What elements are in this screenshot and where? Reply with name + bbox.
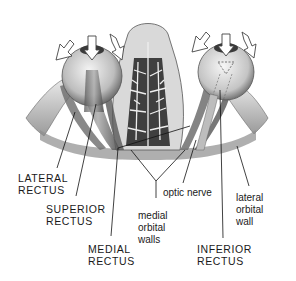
leader-medial-rectus (111, 148, 118, 236)
label-line: INFERIOR (197, 243, 252, 255)
label-line: medial (138, 210, 167, 222)
label-line: wall (236, 216, 263, 228)
label-line: orbital (138, 222, 167, 234)
arrow-right-in-icon (192, 32, 210, 52)
leader-lateral-orbital-wall (237, 146, 249, 186)
label-lateral-orbital-wall: lateral orbital wall (236, 192, 263, 228)
label-line: lateral (236, 192, 263, 204)
label-line: walls (138, 234, 167, 246)
label-line: SUPERIOR (46, 203, 106, 215)
label-inferior-rectus: INFERIOR RECTUS (197, 243, 252, 267)
label-line: orbital (236, 204, 263, 216)
label-line: LATERAL (18, 172, 68, 184)
label-line: RECTUS (197, 255, 252, 267)
label-lateral-rectus: LATERAL RECTUS (18, 172, 68, 196)
label-medial-orbital-walls: medial orbital walls (138, 210, 167, 246)
label-medial-rectus: MEDIAL RECTUS (88, 243, 135, 267)
label-line: RECTUS (88, 255, 135, 267)
label-line: optic nerve (163, 187, 212, 199)
label-optic-nerve: optic nerve (163, 187, 212, 199)
label-line: RECTUS (46, 215, 106, 227)
label-superior-rectus: SUPERIOR RECTUS (46, 203, 106, 227)
label-line: RECTUS (18, 184, 68, 196)
label-line: MEDIAL (88, 243, 135, 255)
